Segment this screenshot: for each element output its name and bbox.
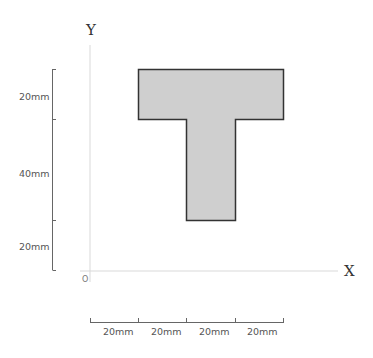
horizontal-dim-label-2: 20mm [151, 326, 182, 337]
t-section-diagram: Y X O 20mm 40mm 20mm 20mm 20mm 20mm 20mm [0, 0, 373, 358]
vertical-dimension-bracket [53, 69, 57, 271]
horizontal-dim-label-3: 20mm [199, 326, 230, 337]
x-axis-label: X [344, 262, 355, 280]
horizontal-dimension-line [90, 318, 284, 323]
origin-label: O [82, 275, 88, 284]
horizontal-dim-label-1: 20mm [103, 326, 134, 337]
horizontal-dim-label-4: 20mm [247, 326, 278, 337]
t-section-shape [139, 70, 284, 221]
vertical-dim-label-flange: 20mm [19, 91, 50, 102]
y-axis-label: Y [85, 21, 97, 39]
vertical-dim-label-web: 40mm [19, 168, 50, 179]
vertical-dim-label-offset: 20mm [19, 241, 50, 252]
